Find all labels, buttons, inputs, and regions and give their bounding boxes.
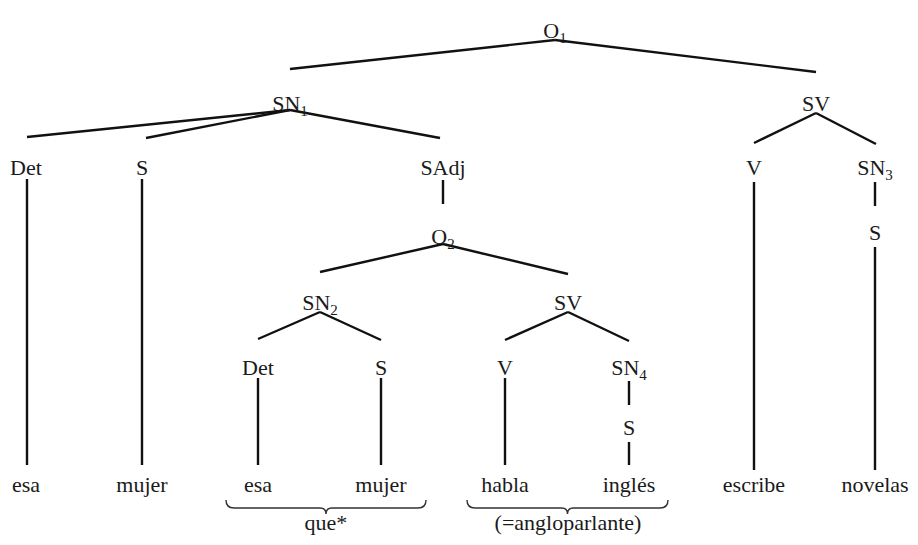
node-s3: S: [869, 220, 881, 245]
node-sn1: SN1: [272, 91, 308, 119]
tree-svg: que*(=angloparlante) O1SN1SVDetSSAdjVSN3…: [0, 0, 918, 545]
syntax-tree-diagram: que*(=angloparlante) O1SN1SVDetSSAdjVSN3…: [0, 0, 918, 545]
node-det2: Det: [242, 355, 274, 380]
node-v2: V: [497, 355, 513, 380]
node-o1: O1: [543, 18, 566, 46]
grouping-braces: que*(=angloparlante): [226, 500, 668, 535]
tree-branch: [258, 312, 320, 339]
node-s4: S: [623, 415, 635, 440]
tree-edges: [27, 40, 876, 470]
tree-branch: [320, 312, 381, 340]
tree-branch: [555, 40, 816, 72]
node-sv2: SV: [554, 290, 582, 315]
leaf-word: mujer: [355, 472, 407, 497]
tree-branch: [754, 113, 816, 143]
brace-label: que*: [305, 510, 348, 535]
leaf-word: novelas: [841, 472, 908, 497]
node-s2: S: [375, 355, 387, 380]
node-det1: Det: [10, 155, 42, 180]
node-sadj: SAdj: [420, 155, 465, 180]
leaf-word: escribe: [723, 472, 785, 497]
node-o2: O2: [431, 224, 454, 252]
leaf-words: esamujeresamujerhablainglésescribenovela…: [12, 472, 909, 497]
tree-branch: [146, 110, 290, 138]
leaf-word: esa: [244, 472, 272, 497]
brace-label: (=angloparlante): [495, 510, 642, 535]
leaf-word: habla: [481, 472, 529, 497]
tree-branch: [568, 312, 629, 341]
tree-branch: [320, 244, 443, 272]
tree-branch: [443, 244, 568, 274]
node-sv1: SV: [802, 91, 830, 116]
node-sn3: SN3: [857, 155, 893, 183]
node-s1: S: [136, 155, 148, 180]
tree-branch: [27, 110, 290, 137]
leaf-word: esa: [12, 472, 40, 497]
leaf-word: mujer: [116, 472, 168, 497]
tree-branch: [290, 40, 555, 69]
tree-branch: [290, 110, 440, 138]
tree-branch: [816, 113, 876, 144]
node-v1: V: [746, 155, 762, 180]
leaf-word: inglés: [603, 472, 656, 497]
node-sn4: SN4: [611, 355, 647, 383]
node-sn2: SN2: [302, 290, 338, 318]
tree-branch: [505, 312, 568, 340]
